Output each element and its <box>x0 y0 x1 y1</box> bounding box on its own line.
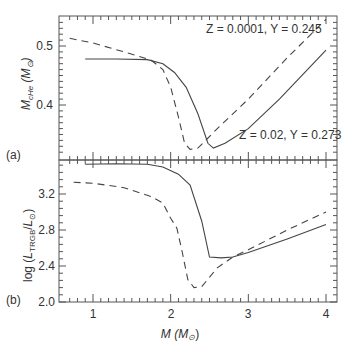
annotation-solar-metallicity: Z = 0.02, Y = 0.273 <box>239 128 342 142</box>
curve-low-z-panel-b <box>74 182 326 287</box>
xtick-4: 4 <box>323 307 330 321</box>
panel-label-b: (b) <box>6 293 21 307</box>
y-axis-title-a: McHe (M⊙) <box>19 57 35 110</box>
xtick-1: 1 <box>90 307 97 321</box>
curve-solar-z-panel-b <box>85 164 326 258</box>
ytick-a-0.4: 0.4 <box>36 98 53 112</box>
ytick-b-2.0: 2.0 <box>38 295 55 309</box>
ytick-a-0.5: 0.5 <box>36 39 53 53</box>
xtick-2: 2 <box>168 307 175 321</box>
panel-label-a: (a) <box>6 148 21 162</box>
xtick-3: 3 <box>245 307 252 321</box>
ytick-b-2.8: 2.8 <box>38 223 55 237</box>
figure: 0.5 0.4 3.2 2.8 2.4 2.0 1 2 3 4 M (M⊙) M… <box>0 0 356 345</box>
x-axis-title: M (M⊙) <box>161 327 199 342</box>
panel-b-frame <box>59 160 337 302</box>
ytick-b-3.2: 3.2 <box>38 187 55 201</box>
data-curves <box>70 19 326 287</box>
y-axis-title-b: log (LTRGB/L⊙) <box>21 209 37 282</box>
ytick-b-2.4: 2.4 <box>38 259 55 273</box>
annotation-low-metallicity: Z = 0.0001, Y = 0.245 <box>206 22 322 36</box>
